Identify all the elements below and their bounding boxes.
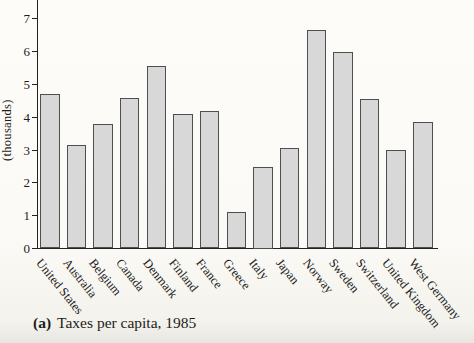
y-tick-mark — [32, 84, 38, 85]
y-tick-label: 3 — [12, 142, 30, 159]
bar-finland — [173, 114, 193, 248]
x-tick-label-japan: Japan — [272, 256, 302, 288]
y-tick-label: 4 — [12, 109, 30, 126]
bar-belgium — [93, 124, 113, 249]
bar-united-kingdom — [386, 150, 406, 248]
bar-italy — [253, 167, 273, 249]
bar-france — [200, 111, 220, 249]
y-tick-mark — [32, 215, 38, 216]
y-tick-label: 6 — [12, 43, 30, 60]
y-tick-mark — [32, 182, 38, 183]
y-tick-mark — [32, 248, 38, 249]
bar-west-germany — [413, 122, 433, 248]
bar-chart: (thousands) 01234567United StatesAustral… — [0, 0, 474, 300]
figure-taxes-per-capita: (thousands) 01234567United StatesAustral… — [0, 0, 474, 343]
y-axis-label: (thousands) — [0, 84, 16, 176]
bar-canada — [120, 98, 140, 249]
x-tick-label-greece: Greece — [219, 256, 253, 293]
y-tick-label: 7 — [12, 10, 30, 27]
bar-japan — [280, 148, 300, 248]
y-tick-mark — [32, 117, 38, 118]
figure-caption: (a)Taxes per capita, 1985 — [33, 314, 196, 332]
y-axis — [37, 0, 38, 249]
y-tick-label: 1 — [12, 207, 30, 224]
y-tick-mark — [32, 18, 38, 19]
bar-united-states — [40, 94, 60, 248]
y-tick-mark — [32, 51, 38, 52]
bar-greece — [227, 212, 247, 248]
y-tick-label: 0 — [12, 240, 30, 257]
y-tick-label: 5 — [12, 76, 30, 93]
bar-norway — [307, 30, 327, 248]
y-tick-label: 2 — [12, 174, 30, 191]
bar-denmark — [147, 66, 167, 248]
bar-switzerland — [360, 99, 380, 248]
y-tick-mark — [32, 150, 38, 151]
bar-australia — [67, 145, 87, 248]
caption-label: (a) — [33, 314, 51, 331]
bar-sweden — [333, 52, 353, 249]
caption-text: Taxes per capita, 1985 — [57, 314, 196, 331]
